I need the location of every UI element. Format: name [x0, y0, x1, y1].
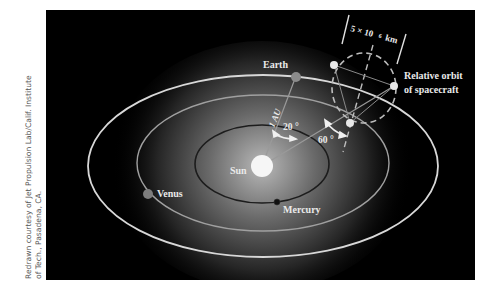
label-angle-20: 20 ° — [283, 122, 299, 132]
label-orbit-line1: Relative orbit — [404, 70, 463, 81]
label-scale: 5 × 10 6 km — [349, 23, 399, 45]
label-scale-unit: km — [384, 33, 399, 46]
scale-tick-right — [397, 34, 406, 64]
label-orbit-line2: of spacecraft — [404, 84, 459, 95]
label-sun: Sun — [230, 165, 247, 176]
label-earth: Earth — [263, 59, 288, 70]
spacecraft-3 — [346, 119, 354, 127]
spacecraft-1 — [330, 61, 338, 69]
label-mercury: Mercury — [283, 204, 321, 215]
label-scale-exponent: 6 — [378, 33, 382, 40]
label-venus: Venus — [157, 188, 183, 199]
spacecraft-2 — [390, 82, 398, 90]
label-angle-60: 60 ° — [318, 135, 334, 145]
scale-tick-left — [342, 15, 349, 44]
solar-system-diagram: Earth Sun Venus Mercury 20 ° 60 ° 1 AU R… — [0, 0, 496, 293]
label-scale-value: 5 × 10 — [349, 23, 374, 39]
venus — [143, 189, 153, 199]
mercury — [274, 199, 280, 205]
sun — [251, 155, 273, 177]
earth — [291, 72, 301, 82]
